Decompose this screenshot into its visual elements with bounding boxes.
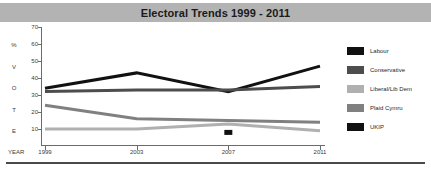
y-axis-tick-label: 50	[31, 58, 38, 64]
y-axis-tick-label: 10	[31, 126, 38, 132]
series-line	[45, 105, 320, 122]
series-line	[45, 124, 320, 131]
legend-item[interactable]: Plaid Cymru	[347, 103, 403, 112]
page-title: Electoral Trends 1999 - 2011	[141, 7, 291, 19]
y-axis-tick-mark	[38, 27, 41, 28]
x-axis-tick-label: 2011	[314, 149, 327, 155]
y-axis-tick-label: 70	[31, 24, 38, 30]
data-point-marker	[224, 130, 232, 135]
y-axis-tick-mark	[38, 44, 41, 45]
chart-screenshot: Electoral Trends 1999 - 2011 % V O T E 1…	[0, 0, 431, 171]
y-axis-caption-letter-0: %	[11, 42, 16, 48]
plot-area	[41, 27, 325, 146]
y-axis-caption-letter-3: T	[12, 107, 16, 113]
x-axis-tick-label: 1999	[38, 149, 51, 155]
legend-swatch-icon	[347, 47, 364, 55]
x-axis-tick-labels: 1999200320072011	[41, 149, 331, 159]
y-axis-caption-letter-2: O	[12, 85, 17, 91]
y-axis-tick-mark	[38, 61, 41, 62]
x-axis-caption: YEAR	[8, 149, 24, 155]
series-lines	[41, 27, 325, 146]
legend: LabourConservativeLiberal/Lib DemPlaid C…	[347, 46, 431, 134]
legend-item[interactable]: Labour	[347, 46, 389, 55]
legend-item-label: UKIP	[370, 124, 384, 130]
legend-swatch-icon	[347, 104, 364, 112]
legend-swatch-icon	[347, 66, 364, 74]
y-axis-tick-mark	[38, 129, 41, 130]
y-axis-tick-mark	[38, 95, 41, 96]
chart-title-banner: Electoral Trends 1999 - 2011	[0, 3, 431, 22]
legend-item-label: Liberal/Lib Dem	[370, 86, 412, 92]
y-axis-caption: % V O T E	[8, 42, 20, 134]
legend-item-label: Plaid Cymru	[370, 105, 403, 111]
legend-item-label: Conservative	[370, 67, 405, 73]
legend-item[interactable]: Liberal/Lib Dem	[347, 84, 412, 93]
y-axis-tick-label: 20	[31, 109, 38, 115]
y-axis-caption-letter-4: E	[12, 128, 16, 134]
y-axis-tick-label: 40	[31, 75, 38, 81]
x-axis-tick-label: 2003	[130, 149, 143, 155]
legend-swatch-icon	[347, 123, 364, 131]
y-axis-tick-label: 30	[31, 92, 38, 98]
legend-item[interactable]: UKIP	[347, 122, 384, 131]
series-line	[45, 87, 320, 92]
y-axis-tick-labels: 10203040506070	[22, 27, 38, 137]
legend-item-label: Labour	[370, 48, 389, 54]
y-axis-caption-letter-1: V	[12, 64, 16, 70]
legend-swatch-icon	[347, 85, 364, 93]
x-axis-tick-label: 2007	[222, 149, 235, 155]
y-axis-tick-mark	[38, 112, 41, 113]
y-axis-tick-mark	[38, 78, 41, 79]
bottom-divider	[6, 162, 425, 164]
legend-item[interactable]: Conservative	[347, 65, 405, 74]
y-axis-tick-label: 60	[31, 41, 38, 47]
